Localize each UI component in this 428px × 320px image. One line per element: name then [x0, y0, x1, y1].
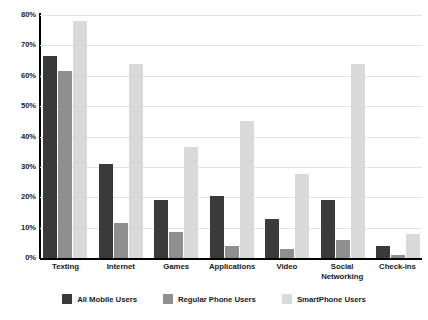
legend-swatch [282, 294, 292, 304]
bar [280, 249, 294, 258]
bar [225, 246, 239, 258]
y-axis-tick-label: 80% [2, 10, 36, 19]
bar-groups [40, 15, 422, 258]
y-axis-tick-label: 20% [2, 192, 36, 201]
bar-group [154, 15, 198, 258]
bar [169, 232, 183, 258]
chart-legend: All Mobile UsersRegular Phone UsersSmart… [0, 294, 428, 304]
x-axis-category-labels: TextingInternetGamesApplicationsVideoSoc… [40, 262, 422, 292]
y-axis-tick-label: 10% [2, 223, 36, 232]
legend-item: All Mobile Users [62, 294, 137, 304]
x-axis-baseline [40, 258, 422, 260]
bar [336, 240, 350, 258]
x-axis-category-label: Internet [98, 262, 143, 292]
bar [129, 64, 143, 258]
bar [376, 246, 390, 258]
bar [406, 234, 420, 258]
y-axis-tick-label: 40% [2, 132, 36, 141]
bar [265, 219, 279, 258]
x-axis-category-label: SocialNetworking [320, 262, 365, 292]
bar-group [43, 15, 87, 258]
legend-label: SmartPhone Users [297, 295, 366, 304]
bar [73, 21, 87, 258]
x-axis-category-label: Texting [43, 262, 88, 292]
legend-item: Regular Phone Users [163, 294, 256, 304]
x-axis-category-label: Applications [209, 262, 254, 292]
bar [184, 147, 198, 258]
y-axis-tick-label: 50% [2, 101, 36, 110]
y-axis-tick-label: 70% [2, 40, 36, 49]
legend-swatch [62, 294, 72, 304]
x-axis-category-label: Video [264, 262, 309, 292]
y-axis-tick-labels: 80%70%60%50%40%30%20%10%0% [0, 15, 36, 258]
bar [154, 200, 168, 258]
x-axis-category-label: Games [154, 262, 199, 292]
bar [43, 56, 57, 258]
bar [99, 164, 113, 258]
bar [210, 196, 224, 258]
y-axis-tick-label: 0% [2, 253, 36, 262]
legend-swatch [163, 294, 173, 304]
bar-group [321, 15, 365, 258]
bar-group [376, 15, 420, 258]
bar [58, 71, 72, 258]
bar-group [265, 15, 309, 258]
bar [351, 64, 365, 258]
bar-group [99, 15, 143, 258]
bar [114, 223, 128, 258]
bar-group [210, 15, 254, 258]
legend-label: Regular Phone Users [178, 295, 256, 304]
plot-area [40, 15, 422, 258]
bar [391, 255, 405, 258]
bar-chart: 80%70%60%50%40%30%20%10%0% TextingIntern… [0, 0, 428, 320]
y-axis-tick-label: 30% [2, 162, 36, 171]
legend-label: All Mobile Users [77, 295, 137, 304]
bar [240, 121, 254, 258]
legend-item: SmartPhone Users [282, 294, 366, 304]
bar [321, 200, 335, 258]
bar [295, 174, 309, 258]
y-axis-tick-label: 60% [2, 71, 36, 80]
x-axis-category-label: Check-ins [375, 262, 420, 292]
